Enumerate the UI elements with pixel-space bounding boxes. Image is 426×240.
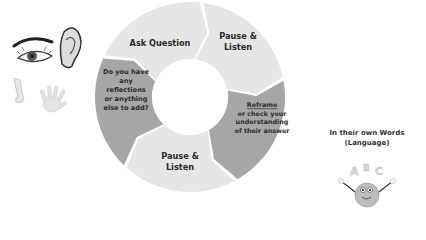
- segment-label-pause2: Pause &: [161, 151, 199, 161]
- brain-icon: [338, 179, 396, 208]
- segment-label-reflect: or anything: [104, 95, 147, 103]
- segment-label-pause1: Pause &: [219, 31, 257, 41]
- segment-label-reflect: reflections: [106, 86, 146, 94]
- side-panel-title: In their own Words (Language): [322, 128, 412, 148]
- segment-label-reframe: of their answer: [235, 127, 291, 135]
- ring-center: [152, 59, 228, 135]
- segment-label-reflect: Do you have: [103, 68, 150, 76]
- abc-brain-illustration: A B C: [330, 160, 400, 217]
- letter-c: C: [375, 165, 383, 178]
- segment-label-reframe: or check your: [238, 110, 288, 118]
- letter-a: A: [350, 165, 359, 178]
- segment-label-reframe: Reframe: [247, 101, 278, 109]
- letter-b: B: [363, 163, 370, 173]
- segment-label-reflect: any: [119, 77, 133, 85]
- side-title-line1: In their own Words: [322, 128, 412, 138]
- segment-label-reframe: understanding: [236, 118, 289, 126]
- segment-label-ask: Ask Question: [130, 38, 191, 48]
- segment-label-pause1: Listen: [224, 42, 252, 52]
- segment-label-reflect: else to add?: [103, 104, 148, 112]
- segment-label-pause2: Listen: [166, 162, 194, 172]
- side-title-line2: (Language): [322, 138, 412, 148]
